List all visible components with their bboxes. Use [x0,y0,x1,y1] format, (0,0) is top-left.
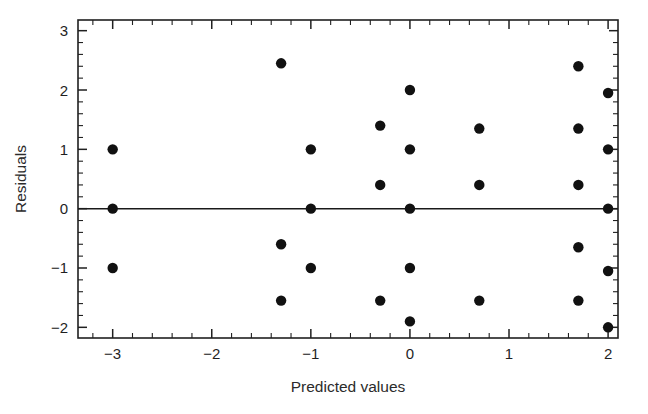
data-point [276,295,286,305]
y-tick-label: 2 [60,82,68,99]
y-tick-label: −1 [51,259,68,276]
y-tick-label: 3 [60,22,68,39]
data-point [306,263,316,273]
data-point [603,203,613,213]
data-point [306,144,316,154]
data-point [375,180,385,190]
data-point [603,266,613,276]
data-point [603,322,613,332]
data-point [603,88,613,98]
y-tick-label: −2 [51,319,68,336]
x-tick-label: −2 [203,345,220,362]
x-tick-label: −3 [104,345,121,362]
data-point [276,239,286,249]
data-point [107,144,117,154]
y-axis-label: Residuals [12,145,29,213]
data-point [474,295,484,305]
data-point [573,180,583,190]
data-point [405,203,415,213]
x-tick-label: 0 [406,345,414,362]
data-point [306,203,316,213]
y-tick-label: 0 [60,200,68,217]
data-point [474,180,484,190]
residual-scatter-plot: −3−2−1012 −2−10123 Predicted values Resi… [0,0,648,414]
data-point [474,123,484,133]
data-point [107,203,117,213]
data-point [573,295,583,305]
data-point [405,316,415,326]
data-point [603,144,613,154]
data-point [107,263,117,273]
data-point [573,242,583,252]
x-axis-label: Predicted values [291,378,406,395]
data-point [405,85,415,95]
data-point [375,120,385,130]
data-point [405,144,415,154]
data-point [573,123,583,133]
data-point [405,263,415,273]
x-tick-label: 1 [505,345,513,362]
data-point [375,295,385,305]
data-point [573,61,583,71]
x-tick-label: 2 [604,345,612,362]
x-tick-label: −1 [302,345,319,362]
data-point [276,58,286,68]
plot-background [0,0,648,414]
y-tick-label: 1 [60,141,68,158]
